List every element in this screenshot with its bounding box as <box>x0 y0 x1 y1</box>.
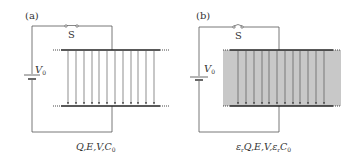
panel-a-caption: Q,E,V,C0 <box>76 141 116 153</box>
panel-b-switch-icon <box>233 25 243 29</box>
panel-b-caption: εrQ,E,V,εrC0 <box>236 141 291 153</box>
panel-a-label: (a) <box>25 10 39 21</box>
panel-b: (b) S V0 <box>190 10 341 153</box>
panel-a-circuit-wire <box>32 26 112 132</box>
panel-b-dielectric <box>223 50 341 106</box>
panel-a-switch-label: S <box>68 29 75 40</box>
panel-a-switch-icon <box>65 25 78 27</box>
panel-b-battery-icon <box>190 77 208 80</box>
panel-a-field-lines <box>68 51 154 104</box>
panel-a-battery-icon <box>24 75 40 79</box>
panel-b-battery-label: V0 <box>204 63 215 75</box>
panel-b-label: (b) <box>196 10 210 21</box>
capacitor-diagram: (a) S V0 <box>0 0 359 161</box>
panel-b-switch-label: S <box>235 30 242 41</box>
panel-a: (a) S V0 <box>24 10 170 153</box>
panel-a-battery-label: V0 <box>35 64 46 76</box>
